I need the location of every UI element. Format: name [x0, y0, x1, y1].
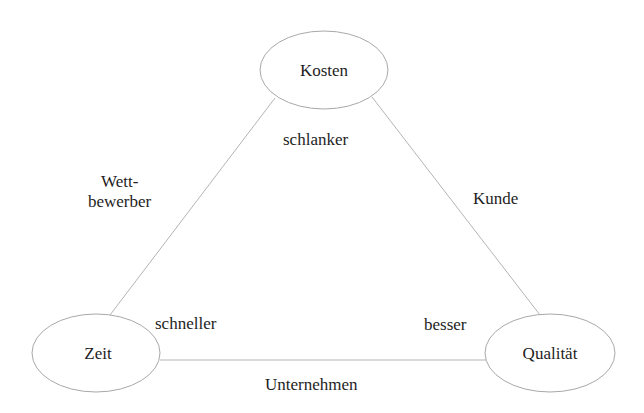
node-qualitaet-label: Qualität: [523, 344, 578, 364]
node-zeit-label: Zeit: [84, 344, 111, 364]
edge-label-unternehmen: Unternehmen: [265, 375, 358, 395]
corner-label-schlanker: schlanker: [283, 130, 348, 150]
corner-label-schneller: schneller: [155, 314, 216, 334]
edge-label-kunde: Kunde: [473, 189, 518, 209]
edge-label-wettbewerber: Wett- bewerber: [88, 172, 151, 212]
corner-label-besser: besser: [424, 315, 466, 335]
node-kosten-label: Kosten: [300, 61, 348, 81]
